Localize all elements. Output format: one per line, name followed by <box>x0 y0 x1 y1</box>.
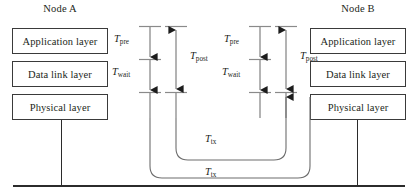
timing-group-b-left-column <box>249 27 271 119</box>
timing-label-inner-t-tx: Ttx <box>205 133 216 144</box>
t-symbol: T <box>300 50 306 61</box>
timing-label-b-t-pre: Tpre <box>224 33 239 44</box>
timing-label-a-t-post: Tpost <box>190 50 208 61</box>
t-symbol: T <box>205 166 211 177</box>
t-subscript: post <box>306 55 318 63</box>
t-subscript: pre <box>230 38 239 46</box>
timing-label-a-t-pre: Tpre <box>114 33 129 44</box>
t-symbol: T <box>224 33 230 44</box>
t-subscript: tx <box>211 138 217 146</box>
timing-group-a-left-column <box>139 27 161 119</box>
t-symbol: T <box>114 33 120 44</box>
inner-transmission-path <box>176 97 286 160</box>
timing-label-b-t-wait: Twait <box>222 66 240 77</box>
t-subscript: post <box>196 55 208 63</box>
timing-label-a-t-wait: Twait <box>112 66 130 77</box>
t-symbol: T <box>190 50 196 61</box>
timing-group-a-right-column <box>165 27 187 119</box>
t-symbol: T <box>112 66 118 77</box>
timing-label-b-t-post: Tpost <box>300 50 318 61</box>
t-symbol: T <box>222 66 228 77</box>
timing-label-outer-t-tx: Ttx <box>205 166 216 177</box>
t-subscript: wait <box>228 71 240 79</box>
t-subscript: tx <box>211 171 217 179</box>
t-subscript: pre <box>120 38 129 46</box>
diagram-canvas: Node A Application layer Data link layer… <box>0 0 418 195</box>
t-symbol: T <box>205 133 211 144</box>
t-subscript: wait <box>118 71 130 79</box>
